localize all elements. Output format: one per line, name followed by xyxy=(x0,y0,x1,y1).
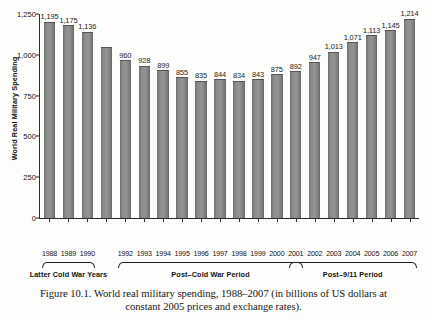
bar-item: 844 xyxy=(214,14,225,218)
bar xyxy=(82,32,93,218)
x-tick-mark xyxy=(239,219,240,222)
x-tick-mark xyxy=(391,219,392,222)
x-tick-mark xyxy=(182,219,183,222)
bar-item: 875 xyxy=(271,14,282,218)
bar-value-label: 1,071 xyxy=(344,33,362,42)
x-tick-label: 2001 xyxy=(288,250,303,258)
bar xyxy=(139,66,150,218)
bar-item: 960 xyxy=(120,14,131,218)
x-tick-mark xyxy=(68,219,69,222)
bar-value-label: 844 xyxy=(214,70,226,79)
caption-line-1: Figure 10.1. World real military spendin… xyxy=(40,288,387,299)
bar-value-label: 899 xyxy=(157,61,169,70)
bar xyxy=(63,25,74,218)
bar xyxy=(101,47,112,218)
bar-value-label: 1,136 xyxy=(78,22,96,31)
x-tick-mark xyxy=(144,219,145,222)
x-tick-label: 1993 xyxy=(137,250,152,258)
period-bracket xyxy=(289,262,417,268)
figure-caption: Figure 10.1. World real military spendin… xyxy=(14,288,413,314)
bar xyxy=(195,81,206,218)
y-tick-label: 500 xyxy=(2,132,36,141)
bar-item: 1,013 xyxy=(328,14,339,218)
bar xyxy=(233,81,244,218)
bar-series: 1,1951,1751,1369609288998558358448348438… xyxy=(40,14,419,218)
bar-value-label: 835 xyxy=(195,71,207,80)
x-tick-label: 2006 xyxy=(383,250,398,258)
x-tick-label: 1994 xyxy=(156,250,171,258)
bar-value-label: 960 xyxy=(119,51,131,60)
bar-item: 892 xyxy=(290,14,301,218)
x-axis-line xyxy=(39,218,419,219)
period-bracket-label: Post–9/11 Period xyxy=(323,270,383,279)
bar-item: 843 xyxy=(252,14,263,218)
bar xyxy=(271,74,282,218)
bar xyxy=(328,52,339,218)
period-bracket-label: Post–Cold War Period xyxy=(171,270,249,279)
x-tick-label: 2000 xyxy=(269,250,284,258)
x-tick-mark xyxy=(258,219,259,222)
bar-value-label: 892 xyxy=(290,62,302,71)
x-tick-label: 1998 xyxy=(231,250,246,258)
x-tick-mark xyxy=(315,219,316,222)
x-tick-label: 2005 xyxy=(364,250,379,258)
bar-item: 1,214 xyxy=(404,14,415,218)
y-tick-label: 0 xyxy=(2,214,36,223)
bar xyxy=(120,60,131,218)
bar xyxy=(252,79,263,218)
bar-item: 1,145 xyxy=(385,14,396,218)
period-bracket xyxy=(42,262,94,268)
bar-item: 1,113 xyxy=(366,14,377,218)
x-tick-mark xyxy=(106,219,107,222)
x-tick-label: 1997 xyxy=(212,250,227,258)
x-tick-mark xyxy=(125,219,126,222)
bar-value-label: 1,013 xyxy=(325,42,343,51)
bar xyxy=(176,77,187,218)
caption-line-2: constant 2005 prices and exchange rates)… xyxy=(14,301,413,314)
x-tick-mark xyxy=(201,219,202,222)
bar-value-label: 1,113 xyxy=(363,26,380,35)
bar-value-label: 1,195 xyxy=(40,12,58,21)
x-tick-label: 1996 xyxy=(193,250,208,258)
period-bracket xyxy=(118,262,303,268)
bar-value-label: 834 xyxy=(233,71,245,80)
bar-value-label: 947 xyxy=(309,53,321,62)
bar-item: 835 xyxy=(195,14,206,218)
x-tick-label: 2007 xyxy=(402,250,417,258)
y-tick-label: 250 xyxy=(2,173,36,182)
x-tick-mark xyxy=(353,219,354,222)
x-tick-label: 1989 xyxy=(61,250,76,258)
y-tick-label: 750 xyxy=(2,91,36,100)
bar-value-label: 843 xyxy=(252,70,264,79)
bar-item xyxy=(101,14,112,218)
bar-value-label: 875 xyxy=(271,65,283,74)
bar xyxy=(157,70,168,218)
period-bracket-label: Latter Cold War Years xyxy=(30,270,108,279)
y-tick-label: 1,000 xyxy=(2,50,36,59)
x-tick-mark xyxy=(87,219,88,222)
x-tick-label: 2003 xyxy=(326,250,341,258)
bar-item: 855 xyxy=(176,14,187,218)
x-tick-label: 2002 xyxy=(307,250,322,258)
bar-value-label: 1,145 xyxy=(382,21,400,30)
bar-value-label: 928 xyxy=(138,56,150,65)
y-axis-ticks: 02505007501,0001,250 xyxy=(0,0,36,218)
bar-item: 1,175 xyxy=(63,14,74,218)
bar-value-label: 1,175 xyxy=(59,16,77,25)
bar-item: 899 xyxy=(157,14,168,218)
bar-value-label: 1,214 xyxy=(401,9,419,18)
bar-item: 947 xyxy=(309,14,320,218)
bar xyxy=(404,19,415,218)
x-tick-mark xyxy=(220,219,221,222)
bar xyxy=(214,79,225,218)
bar-value-label: 855 xyxy=(176,68,188,77)
x-tick-mark xyxy=(277,219,278,222)
x-axis-labels: 1988198919901992199319941995199619971998… xyxy=(40,250,419,262)
x-tick-label: 2004 xyxy=(345,250,360,258)
x-tick-mark xyxy=(296,219,297,222)
bar xyxy=(347,42,358,218)
bar-item: 1,136 xyxy=(82,14,93,218)
x-tick-mark xyxy=(372,219,373,222)
figure-container: World Real Military Spending 02505007501… xyxy=(0,0,427,319)
bar xyxy=(290,71,301,218)
